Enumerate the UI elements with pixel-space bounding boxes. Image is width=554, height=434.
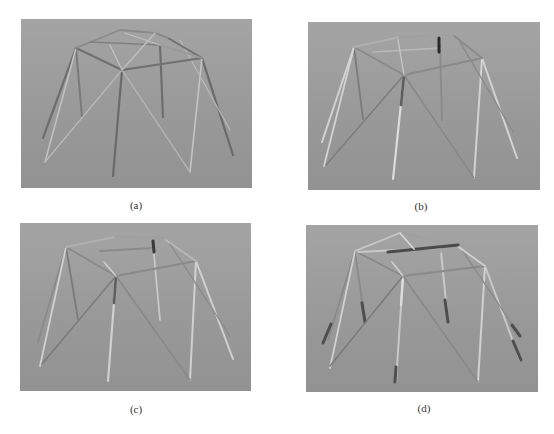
truss-member (324, 47, 354, 166)
truss-member (355, 233, 400, 251)
panel-a (21, 19, 252, 188)
truss-member (460, 42, 513, 132)
truss-member (76, 30, 120, 48)
truss-member (388, 245, 458, 252)
truss-member (170, 244, 230, 336)
truss-member (113, 70, 122, 176)
truss-member (38, 247, 66, 342)
truss-structure-render (306, 225, 538, 392)
truss-member (462, 250, 520, 336)
panel-b (308, 22, 540, 190)
caption-d: (d) (404, 402, 444, 414)
truss-member (76, 48, 82, 117)
truss-member (100, 248, 153, 251)
truss-structure-render (20, 223, 251, 391)
truss-member (115, 237, 163, 238)
truss-member (45, 48, 76, 162)
truss-member (116, 276, 190, 380)
truss-member (512, 325, 520, 336)
truss-member (513, 341, 521, 360)
truss-member (362, 303, 365, 322)
truss-member (45, 70, 122, 162)
truss-member (160, 45, 202, 58)
truss-member (440, 45, 442, 120)
truss-member (168, 38, 202, 58)
truss-member (104, 262, 116, 276)
truss-member (76, 48, 122, 70)
panel-d (306, 225, 538, 392)
truss-member (445, 300, 448, 322)
truss-structure-render (21, 19, 252, 188)
truss-member (400, 35, 453, 37)
truss-member (328, 251, 355, 340)
truss-member (122, 33, 155, 70)
truss-member (326, 75, 404, 165)
truss-member (354, 37, 400, 47)
truss-member (401, 276, 403, 305)
truss-member (160, 45, 163, 117)
truss-member (401, 75, 404, 105)
truss-member (66, 237, 115, 247)
truss-member (166, 240, 196, 261)
truss-member (155, 33, 168, 38)
caption-b: (b) (401, 200, 441, 212)
truss-member (190, 58, 202, 172)
truss-member (40, 247, 66, 366)
truss-member (114, 276, 116, 303)
truss-member (474, 58, 482, 178)
truss-member (322, 47, 354, 142)
truss-member (43, 48, 76, 138)
truss-member (122, 70, 190, 172)
truss-member (153, 244, 160, 320)
truss-member (373, 48, 440, 52)
panel-c (20, 223, 251, 391)
truss-member (196, 261, 233, 359)
truss-member (66, 247, 78, 319)
caption-a: (a) (116, 199, 156, 211)
truss-member (90, 42, 160, 45)
caption-c: (c) (116, 403, 156, 415)
truss-member (395, 367, 396, 382)
truss-member (355, 251, 403, 276)
truss-member (398, 40, 404, 75)
truss-structure-render (308, 22, 540, 190)
truss-member (403, 276, 478, 382)
truss-member (153, 241, 154, 252)
truss-member (404, 75, 474, 178)
truss-member (354, 47, 363, 119)
